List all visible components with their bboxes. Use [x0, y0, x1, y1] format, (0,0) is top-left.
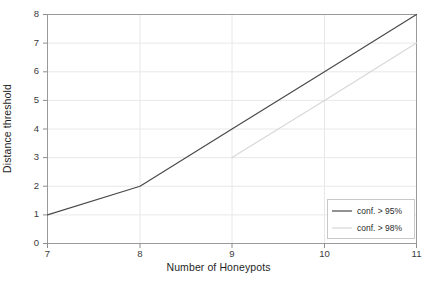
x-tick-label-7: 7: [36, 248, 60, 259]
x-tick-label-9: 9: [220, 248, 244, 259]
y-tick-label-2: 2: [15, 180, 39, 191]
legend-label-conf-98: conf. > 98%: [357, 223, 403, 233]
y-tick-label-8: 8: [15, 8, 39, 19]
x-tick-label-10: 10: [313, 248, 337, 259]
y-tick-label-7: 7: [15, 37, 39, 48]
x-tick-label-11: 11: [405, 248, 429, 259]
y-tick-label-1: 1: [15, 208, 39, 219]
legend-label-conf-95: conf. > 95%: [357, 206, 403, 216]
y-tick-label-3: 3: [15, 151, 39, 162]
legend[interactable]: conf. > 95% conf. > 98%: [328, 200, 415, 239]
y-tick-marks: [43, 15, 47, 244]
x-axis-label: Number of Honeypots: [0, 261, 437, 273]
chart-figure: conf. > 95% conf. > 98% 8 7 6 5 4 3 2 1 …: [0, 0, 437, 281]
x-tick-label-8: 8: [128, 248, 152, 259]
plot-canvas: conf. > 95% conf. > 98%: [0, 0, 437, 281]
y-axis-label: Distance threshold: [0, 14, 14, 243]
y-tick-label-6: 6: [15, 65, 39, 76]
y-tick-label-4: 4: [15, 123, 39, 134]
y-tick-label-5: 5: [15, 94, 39, 105]
y-tick-label-0: 0: [15, 237, 39, 248]
